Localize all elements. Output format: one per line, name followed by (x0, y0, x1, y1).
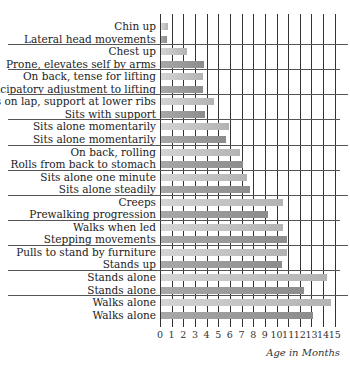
row-label: Chest up (109, 45, 156, 57)
data-bar (161, 174, 247, 181)
group-separator (8, 295, 348, 296)
data-bar (161, 211, 268, 218)
data-bar (161, 73, 203, 80)
data-bar (161, 249, 287, 256)
data-bar (161, 149, 240, 156)
row-label: Anticipatory adjustment to lifting (0, 83, 156, 95)
group-separator (8, 195, 348, 196)
motor-development-chart: Chin upLateral head movementsChest upPro… (0, 0, 350, 366)
row-label: On back, tense for lifting (23, 70, 156, 82)
row-label: Prewalking progression (29, 208, 156, 220)
row-label: Chin up (114, 20, 156, 32)
row-label: On back, rolling (70, 146, 156, 158)
row-label: Lateral head movements (24, 33, 156, 45)
data-bar (161, 186, 250, 193)
row-label: Sits alone momentarily (33, 120, 156, 132)
group-separator (8, 170, 340, 171)
row-label: Sits alone steadily (59, 183, 156, 195)
row-label: Sits on lap, support at lower ribs (0, 95, 156, 107)
row-label: Stands up (103, 258, 156, 270)
data-bar (161, 312, 313, 319)
data-bar (161, 236, 287, 243)
row-label: Walks alone (92, 309, 156, 321)
data-bar (161, 224, 283, 231)
row-label: Stands alone (87, 271, 156, 283)
group-separator (8, 270, 340, 271)
data-bar (161, 23, 168, 30)
group-separator (8, 69, 340, 70)
group-separator (8, 220, 340, 221)
data-bar (161, 299, 331, 306)
data-bar (161, 274, 327, 281)
group-separator (8, 245, 348, 246)
group-separator (8, 44, 348, 45)
row-label: Stands alone (87, 284, 156, 296)
data-bar (161, 48, 187, 55)
x-tick-label: 15 (328, 329, 342, 340)
row-label: Walks when led (73, 221, 156, 233)
row-label: Prone, elevates self by arms (6, 58, 156, 70)
data-bar (161, 136, 226, 143)
data-bar (161, 86, 203, 93)
row-label: Pulls to stand by furniture (16, 246, 156, 258)
data-bar (161, 111, 205, 118)
data-bar (161, 261, 282, 268)
row-label: Walks alone (92, 296, 156, 308)
data-bar (161, 199, 283, 206)
row-label: Sits alone one minute (40, 171, 156, 183)
group-separator (8, 145, 348, 146)
data-bar (161, 123, 229, 130)
row-label: Creeps (118, 196, 156, 208)
group-separator (8, 94, 348, 95)
row-label: Sits alone momentarily (33, 133, 156, 145)
data-bar (161, 161, 243, 168)
data-bar (161, 98, 214, 105)
data-bar (161, 287, 304, 294)
row-label: Sits with support (65, 108, 156, 120)
group-separator (8, 119, 340, 120)
data-bar (161, 61, 204, 68)
x-axis-label: Age in Months (266, 347, 340, 358)
row-label: Rolls from back to stomach (11, 158, 156, 170)
row-label: Stepping movements (44, 233, 156, 245)
data-bar (161, 36, 167, 43)
